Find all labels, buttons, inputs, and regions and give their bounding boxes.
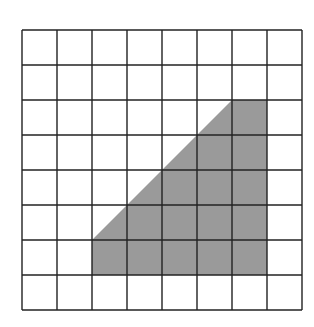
grid-diagram bbox=[0, 0, 314, 327]
